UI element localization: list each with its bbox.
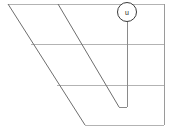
inner-slanted-line	[58, 4, 119, 107]
callout-label: u	[125, 9, 129, 16]
vertical-lines-group	[119, 4, 164, 125]
slanted-lines-group	[8, 4, 119, 125]
horizontal-lines-group	[8, 4, 164, 125]
figure-canvas: u	[0, 0, 173, 135]
callout-marker[interactable]: u	[118, 3, 137, 22]
line-drawing-svg: u	[0, 0, 173, 135]
left-slanted-line	[8, 4, 85, 125]
